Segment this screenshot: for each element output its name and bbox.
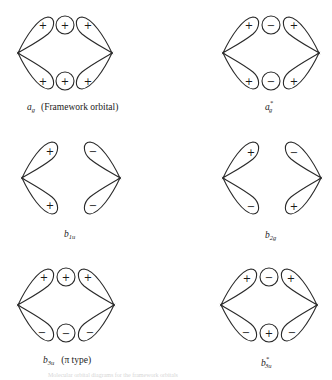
sign-top-right: +: [290, 20, 298, 31]
lobe-top-right: [283, 17, 319, 53]
sign-top-left: +: [46, 146, 54, 157]
sign-bottom-left: +: [46, 200, 54, 211]
lobe-bottom-left: [18, 53, 54, 89]
sign-bottom-right: +: [290, 76, 298, 87]
lobe-top-left: [18, 269, 54, 305]
sign-top-right: +: [84, 272, 92, 283]
panel-ag: + + + + + + ag(Framework orbital): [18, 16, 118, 113]
lobe-bottom-left: [221, 305, 257, 341]
sign-top-right: −: [290, 147, 298, 158]
sign-bottom-center: +: [265, 328, 273, 339]
sign-bottom-right: −: [288, 327, 296, 338]
sign-bottom-left: −: [247, 201, 255, 212]
orbital-figure: + + + + + + ag(Framework orbital) + − + …: [0, 0, 332, 380]
panel-b3u: + + + − − − b3u(π type): [18, 268, 114, 366]
panel-ag-star: + − + + − + a*g: [223, 16, 319, 113]
panel-label: b2g: [265, 230, 277, 241]
sign-top-right: −: [89, 146, 97, 157]
sign-top-left: +: [243, 273, 251, 284]
panel-b1u: + − + − b1u: [22, 142, 120, 240]
panel-b2g: + − − + b2g: [223, 142, 321, 241]
sign-top-center: +: [61, 20, 69, 31]
lobe-top-right: [76, 17, 112, 53]
sign-bottom-left: −: [242, 327, 250, 338]
panel-b3u-star: + − + − + − b*3u: [221, 268, 317, 369]
panel-label: b3u(π type): [43, 355, 91, 366]
sign-bottom-center: +: [61, 76, 69, 87]
sign-bottom-left: +: [245, 76, 253, 87]
panel-label: b*3u: [261, 355, 272, 369]
sign-top-right: +: [84, 20, 92, 31]
sign-bottom-right: −: [89, 200, 97, 211]
sign-top-center: +: [62, 272, 70, 283]
lobe-bottom-right: [76, 53, 112, 89]
sign-bottom-right: +: [290, 201, 298, 212]
lobe-top-left: [221, 269, 257, 305]
sign-top-right: +: [287, 273, 295, 284]
sign-top-center: −: [267, 20, 275, 31]
sign-bottom-right: +: [84, 76, 92, 87]
sign-bottom-left: −: [38, 327, 46, 338]
panel-label: ag(Framework orbital): [27, 102, 118, 113]
panel-label: a*g: [265, 99, 274, 113]
lobe-top-left: [223, 17, 259, 53]
lobe-bottom-right: [281, 305, 317, 341]
sign-top-center: −: [265, 272, 273, 283]
sign-top-left: +: [247, 147, 255, 158]
figure-caption: Molecular orbital diagrams for the frame…: [48, 372, 179, 378]
panel-label: b1u: [64, 229, 76, 240]
lobe-bottom-right: [283, 53, 319, 89]
sign-bottom-left: +: [39, 76, 47, 87]
sign-bottom-center: −: [267, 76, 275, 87]
sign-top-left: +: [39, 20, 47, 31]
sign-top-left: +: [245, 20, 253, 31]
lobe-bottom-left: [223, 53, 259, 89]
lobe-top-left: [18, 17, 54, 53]
sign-bottom-center: −: [62, 328, 70, 339]
sign-top-left: +: [40, 272, 48, 283]
sign-bottom-right: −: [86, 327, 94, 338]
lobe-bottom-right: [78, 305, 114, 341]
lobe-bottom-left: [18, 305, 54, 341]
